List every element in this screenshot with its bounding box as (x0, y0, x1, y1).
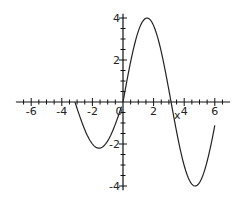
function-plot: -6-4-20246-4-224 x (0, 0, 247, 203)
x-tick-label: 4 (181, 105, 188, 118)
y-tick-label: 2 (113, 54, 120, 67)
y-tick-label: -4 (109, 180, 120, 193)
x-tick-label: 2 (150, 105, 157, 118)
x-tick-label: 6 (211, 105, 218, 118)
x-axis-label: x (174, 109, 181, 122)
x-tick-label: -4 (56, 105, 67, 118)
y-tick-label: 4 (113, 12, 120, 25)
x-tick-label: -6 (26, 105, 37, 118)
x-tick-label: -2 (87, 105, 98, 118)
y-tick-label: -2 (109, 138, 120, 151)
